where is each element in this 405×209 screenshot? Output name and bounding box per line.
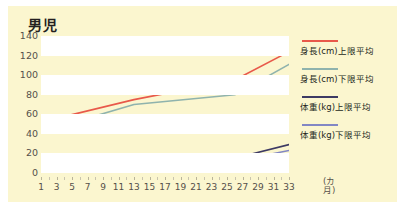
- x-axis-tick-mark: [235, 177, 236, 180]
- legend-swatch-1: [302, 40, 338, 42]
- x-axis-tick-label: 23: [206, 183, 217, 192]
- y-axis-tick-label: 80: [26, 90, 38, 100]
- x-axis-tick-mark: [126, 177, 127, 180]
- grid-band: [41, 114, 289, 134]
- legend-item-3[interactable]: 体重(kg)上限平均: [300, 96, 396, 121]
- x-axis-tick-mark: [111, 177, 112, 180]
- x-axis-tick-mark: [250, 177, 251, 180]
- x-axis-tick-label: 17: [159, 183, 170, 192]
- x-axis-tick-mark: [212, 177, 213, 180]
- x-axis-tick-label: 15: [144, 183, 155, 192]
- x-axis-tick-mark: [181, 177, 182, 180]
- x-axis-tick-label: 1: [38, 183, 44, 192]
- x-axis-tick-mark: [204, 177, 205, 180]
- x-axis-tick-mark: [258, 177, 259, 180]
- x-axis-unit-label: (カ月): [323, 177, 335, 194]
- plot-area: [41, 36, 289, 173]
- y-axis-tick-label: 40: [26, 129, 38, 139]
- x-axis-tick-mark: [80, 177, 81, 180]
- x-axis-tick-mark: [243, 177, 244, 180]
- legend-label-2: 身長(cm)下限平均: [300, 72, 396, 84]
- x-axis: (カ月) 13579111315171921232527293133: [41, 177, 301, 197]
- x-axis-tick-label: 5: [69, 183, 75, 192]
- x-axis-tick-mark: [142, 177, 143, 180]
- legend-item-1[interactable]: 身長(cm)上限平均: [300, 40, 396, 65]
- x-axis-tick-mark: [72, 177, 73, 180]
- grid-band: [41, 36, 289, 56]
- x-axis-tick-label: 33: [283, 183, 294, 192]
- x-axis-tick-mark: [88, 177, 89, 180]
- legend-swatch-2: [302, 68, 338, 70]
- x-axis-tick-mark: [103, 177, 104, 180]
- legend-item-4[interactable]: 体重(kg)下限平均: [300, 124, 396, 149]
- x-axis-tick-mark: [49, 177, 50, 180]
- x-axis-tick-mark: [157, 177, 158, 180]
- x-axis-tick-mark: [41, 177, 42, 180]
- x-axis-tick-label: 11: [113, 183, 124, 192]
- x-axis-tick-mark: [119, 177, 120, 180]
- x-axis-tick-label: 21: [190, 183, 201, 192]
- grid-band: [41, 75, 289, 95]
- y-axis-tick-label: 20: [26, 149, 38, 159]
- x-axis-tick-mark: [173, 177, 174, 180]
- x-axis-tick-mark: [227, 177, 228, 180]
- x-axis-tick-label: 29: [252, 183, 263, 192]
- chart-card: 男児 020406080100120140 (カ月) 1357911131517…: [8, 6, 397, 202]
- x-axis-tick-label: 27: [237, 183, 248, 192]
- legend-label-1: 身長(cm)上限平均: [300, 44, 396, 56]
- y-axis-tick-label: 140: [20, 31, 38, 41]
- x-axis-tick-label: 9: [100, 183, 106, 192]
- y-axis-tick-label: 60: [26, 110, 38, 120]
- legend-label-3: 体重(kg)上限平均: [300, 100, 396, 112]
- y-axis-tick-label: 0: [32, 168, 38, 178]
- x-axis-tick-mark: [188, 177, 189, 180]
- y-axis-tick-label: 100: [20, 70, 38, 80]
- x-axis-tick-label: 7: [85, 183, 91, 192]
- x-axis-tick-mark: [57, 177, 58, 180]
- x-axis-tick-mark: [266, 177, 267, 180]
- y-axis-tick-label: 120: [20, 51, 38, 61]
- x-axis-tick-label: 13: [128, 183, 139, 192]
- x-axis-tick-mark: [64, 177, 65, 180]
- grid-band: [41, 153, 289, 173]
- x-axis-tick-mark: [165, 177, 166, 180]
- y-axis: 020406080100120140: [8, 30, 41, 180]
- x-axis-tick-mark: [274, 177, 275, 180]
- x-axis-tick-mark: [219, 177, 220, 180]
- x-axis-tick-mark: [134, 177, 135, 180]
- x-axis-tick-mark: [150, 177, 151, 180]
- legend-swatch-3: [302, 96, 338, 98]
- x-axis-tick-mark: [95, 177, 96, 180]
- x-axis-tick-mark: [196, 177, 197, 180]
- x-axis-tick-label: 25: [221, 183, 232, 192]
- legend-swatch-4: [302, 124, 338, 126]
- legend-item-2[interactable]: 身長(cm)下限平均: [300, 68, 396, 93]
- x-axis-tick-mark: [289, 177, 290, 180]
- legend-label-4: 体重(kg)下限平均: [300, 128, 396, 140]
- x-axis-tick-label: 19: [175, 183, 186, 192]
- chart-legend: 身長(cm)上限平均身長(cm)下限平均体重(kg)上限平均体重(kg)下限平均: [300, 40, 396, 152]
- x-axis-tick-mark: [281, 177, 282, 180]
- x-axis-tick-label: 31: [268, 183, 279, 192]
- x-axis-tick-label: 3: [54, 183, 60, 192]
